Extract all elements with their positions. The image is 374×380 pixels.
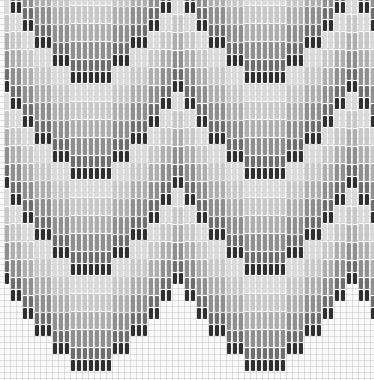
dark-outline-stitch — [149, 212, 153, 223]
dark-outline-stitch — [179, 81, 183, 92]
lightest-stitch — [221, 241, 225, 258]
mid-dark-stitch — [227, 331, 231, 342]
mid-dark-stitch — [29, 200, 33, 211]
light-gray-stitch — [161, 146, 165, 163]
dark-outline-stitch — [89, 264, 93, 275]
pale-stitch — [239, 85, 243, 102]
mid-gray-stitch — [71, 234, 75, 251]
light-gray-stitch — [131, 85, 135, 102]
pale-stitch — [179, 207, 183, 224]
light-gray-stitch — [257, 120, 261, 137]
dark-outline-stitch — [77, 72, 81, 83]
light-gray-stitch — [347, 225, 351, 242]
pale-stitch — [365, 224, 369, 241]
light-gray-stitch — [353, 129, 357, 146]
pale-stitch — [299, 0, 303, 6]
dark-outline-stitch — [275, 168, 279, 179]
lightest-stitch — [335, 206, 339, 223]
mid-gray-stitch — [131, 7, 135, 24]
mid-gray-stitch — [131, 103, 135, 120]
pale-stitch — [275, 294, 279, 311]
pale-stitch — [137, 67, 141, 84]
dark-outline-stitch — [35, 133, 39, 144]
mid-gray-stitch — [167, 164, 171, 181]
dark-outline-stitch — [281, 168, 285, 179]
lightest-stitch — [323, 32, 327, 49]
light-gray-stitch — [239, 199, 243, 216]
pale-stitch — [41, 163, 45, 180]
lightest-stitch — [233, 67, 237, 84]
mid-gray-stitch — [341, 164, 345, 181]
mid-dark-stitch — [41, 121, 45, 132]
stitch-column — [305, 0, 309, 337]
light-gray-stitch — [71, 216, 75, 233]
light-gray-stitch — [227, 7, 231, 24]
dark-outline-stitch — [365, 2, 369, 13]
light-gray-stitch — [143, 0, 147, 6]
light-gray-stitch — [173, 225, 177, 242]
mid-gray-stitch — [113, 313, 117, 330]
dark-outline-stitch — [269, 264, 273, 275]
mid-dark-stitch — [275, 156, 279, 167]
mid-dark-stitch — [95, 60, 99, 71]
light-gray-stitch — [161, 50, 165, 67]
pale-stitch — [47, 259, 51, 276]
light-gray-stitch — [155, 260, 159, 277]
light-gray-stitch — [53, 7, 57, 24]
mid-dark-stitch — [77, 252, 81, 263]
mid-gray-stitch — [47, 7, 51, 24]
light-gray-stitch — [149, 68, 153, 85]
dark-outline-stitch — [113, 55, 117, 66]
dark-outline-stitch — [143, 133, 147, 144]
pale-stitch — [5, 15, 9, 32]
mid-gray-stitch — [209, 295, 213, 312]
mid-gray-stitch — [161, 164, 165, 181]
dark-outline-stitch — [365, 194, 369, 205]
dark-outline-stitch — [263, 360, 267, 371]
dark-outline-stitch — [59, 151, 63, 162]
stitch-column — [23, 0, 27, 320]
mid-gray-stitch — [143, 295, 147, 312]
dark-outline-stitch — [161, 2, 165, 13]
dark-outline-stitch — [239, 343, 243, 354]
mid-dark-stitch — [71, 252, 75, 263]
mid-dark-stitch — [233, 43, 237, 54]
light-gray-stitch — [257, 312, 261, 329]
mid-dark-stitch — [341, 0, 345, 1]
mid-gray-stitch — [29, 0, 33, 7]
mid-gray-stitch — [257, 138, 261, 155]
dark-outline-stitch — [23, 20, 27, 31]
light-gray-stitch — [47, 85, 51, 102]
dark-outline-stitch — [233, 151, 237, 162]
pale-stitch — [179, 111, 183, 128]
lightest-stitch — [341, 14, 345, 31]
pale-stitch — [197, 50, 201, 67]
dark-outline-stitch — [227, 55, 231, 66]
mid-dark-stitch — [149, 296, 153, 307]
mid-gray-stitch — [149, 182, 153, 199]
dark-outline-stitch — [59, 343, 63, 354]
mid-dark-stitch — [101, 252, 105, 263]
pale-stitch — [161, 128, 165, 145]
mid-gray-stitch — [113, 217, 117, 234]
lightest-stitch — [101, 0, 105, 5]
light-gray-stitch — [275, 24, 279, 41]
mid-dark-stitch — [275, 252, 279, 263]
mid-gray-stitch — [227, 121, 231, 138]
lightest-stitch — [299, 67, 303, 84]
mid-dark-stitch — [263, 60, 267, 71]
pale-stitch — [263, 294, 267, 311]
light-gray-stitch — [155, 164, 159, 181]
mid-dark-stitch — [281, 348, 285, 359]
mid-gray-stitch — [155, 86, 159, 103]
pale-stitch — [263, 102, 267, 119]
mid-dark-stitch — [257, 348, 261, 359]
pale-stitch — [215, 163, 219, 180]
mid-gray-stitch — [359, 68, 363, 85]
mid-dark-stitch — [23, 8, 27, 19]
mid-gray-stitch — [185, 260, 189, 277]
dark-outline-stitch — [353, 177, 357, 188]
light-gray-stitch — [263, 312, 267, 329]
lightest-stitch — [113, 163, 117, 180]
pale-stitch — [47, 67, 51, 84]
